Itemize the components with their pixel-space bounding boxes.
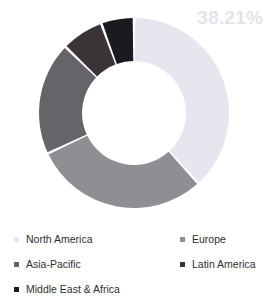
legend-swatch-europe [180, 237, 185, 242]
legend-label-north-america: North America [26, 234, 93, 245]
legend-label-asia-pacific: Asia-Pacific [26, 259, 81, 270]
legend-item-europe[interactable]: Europe [180, 227, 226, 252]
legend-item-north-america[interactable]: North America [14, 227, 93, 252]
legend-row: Middle East & Africa [0, 277, 269, 302]
legend-swatch-middle-east-africa [14, 287, 19, 292]
legend-item-asia-pacific[interactable]: Asia-Pacific [14, 252, 81, 277]
legend-item-latin-america[interactable]: Latin America [180, 252, 256, 277]
legend-swatch-latin-america [180, 262, 185, 267]
legend-swatch-asia-pacific [14, 262, 19, 267]
donut-slice-group [39, 18, 229, 208]
legend-row: Asia-Pacific Latin America [0, 252, 269, 277]
donut-slice[interactable] [135, 18, 229, 182]
legend-item-middle-east-africa[interactable]: Middle East & Africa [14, 277, 120, 302]
value-label: 38.21% [197, 8, 263, 27]
legend-row: North America Europe [0, 227, 269, 252]
donut-chart: 38.21% [0, 0, 269, 222]
legend-swatch-north-america [14, 237, 19, 242]
legend-label-latin-america: Latin America [192, 259, 256, 270]
chart-legend: North America Europe Asia-Pacific Latin … [0, 224, 269, 307]
legend-label-europe: Europe [192, 234, 226, 245]
donut-chart-svg [0, 0, 269, 222]
legend-label-middle-east-africa: Middle East & Africa [26, 284, 120, 295]
